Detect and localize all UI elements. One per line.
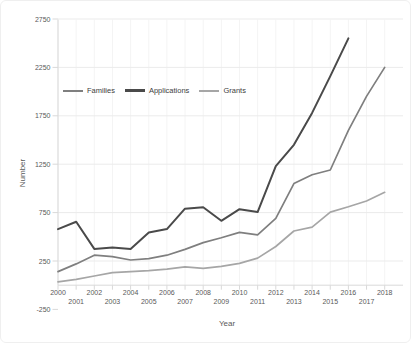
chart-legend: Families Applications Grants	[63, 86, 246, 95]
legend-label-grants: Grants	[223, 86, 246, 95]
families-line-swatch	[63, 90, 83, 92]
y-tick-label: 2750	[35, 16, 51, 23]
grants-line-swatch	[199, 90, 219, 92]
y-tick-label: 250	[39, 258, 51, 265]
x-tick-label: 2017	[359, 298, 375, 305]
chart-panel: -250250750125017502250275020002001200220…	[0, 0, 411, 343]
x-tick-label: 2007	[177, 298, 193, 305]
applications-line-swatch	[125, 89, 145, 92]
y-tick-label: 1250	[35, 161, 51, 168]
line-chart: -250250750125017502250275020002001200220…	[1, 1, 411, 343]
x-tick-label: 2005	[141, 298, 157, 305]
legend-label-families: Families	[87, 86, 115, 95]
legend-item-grants: Grants	[199, 86, 246, 95]
x-tick-label: 2011	[250, 298, 265, 305]
y-tick-label: 1750	[35, 112, 51, 119]
y-tick-label: 750	[39, 209, 51, 216]
x-tick-label: 2003	[105, 298, 121, 305]
y-tick-label: 2250	[35, 64, 51, 71]
legend-label-applications: Applications	[149, 86, 189, 95]
x-tick-label: 2018	[377, 289, 393, 296]
x-tick-label: 2008	[195, 289, 211, 296]
y-axis-title: Number	[18, 159, 27, 187]
x-tick-label: 2006	[159, 289, 175, 296]
x-tick-label: 2015	[322, 298, 338, 305]
x-tick-label: 2001	[68, 298, 84, 305]
x-tick-label: 2002	[87, 289, 103, 296]
x-tick-label: 2010	[232, 289, 248, 296]
x-tick-label: 2004	[123, 289, 139, 296]
x-tick-label: 2012	[268, 289, 284, 296]
y-tick-label: -250	[36, 306, 50, 313]
legend-item-families: Families	[63, 86, 115, 95]
x-tick-label: 2013	[286, 298, 302, 305]
legend-item-applications: Applications	[125, 86, 189, 95]
x-tick-label: 2000	[50, 289, 66, 296]
x-tick-label: 2016	[341, 289, 357, 296]
x-tick-label: 2014	[304, 289, 320, 296]
x-axis-title: Year	[219, 319, 235, 328]
x-tick-label: 2009	[214, 298, 230, 305]
